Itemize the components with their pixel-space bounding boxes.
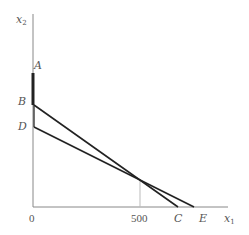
x-axis-label: x1 bbox=[224, 213, 235, 226]
point-label-E: E bbox=[199, 213, 207, 224]
origin-label: 0 bbox=[29, 213, 35, 224]
budget-constraint-diagram bbox=[0, 0, 249, 235]
point-label-A: A bbox=[34, 60, 42, 71]
point-label-C: C bbox=[174, 213, 182, 224]
x-axis-label-sub: 1 bbox=[230, 218, 234, 226]
line-BC bbox=[34, 105, 178, 207]
y-axis-label: x2 bbox=[16, 14, 27, 27]
point-label-D: D bbox=[18, 121, 27, 132]
line-DE bbox=[34, 127, 194, 207]
tick-500: 500 bbox=[131, 213, 148, 224]
point-label-B: B bbox=[18, 96, 26, 107]
y-axis-label-sub: 2 bbox=[22, 19, 26, 27]
